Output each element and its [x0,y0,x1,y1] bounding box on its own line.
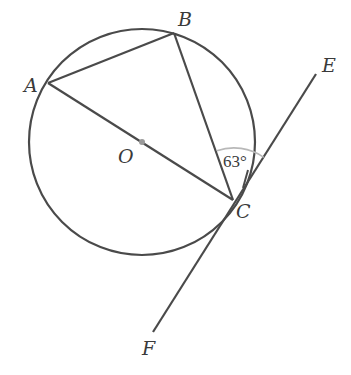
tangent-line-ef [153,74,316,332]
label-f: F [141,337,156,359]
label-e: E [321,54,336,76]
center-point-o [139,139,145,145]
label-a: A [22,74,38,96]
angle-label-63: 63° [223,152,247,171]
label-c: C [236,200,251,222]
segment-bc [174,33,233,200]
label-o: O [118,145,134,167]
label-b: B [177,8,192,30]
diagram-canvas: A B C O E F 63° [0,0,351,375]
geometry-diagram: A B C O E F 63° [0,0,351,375]
